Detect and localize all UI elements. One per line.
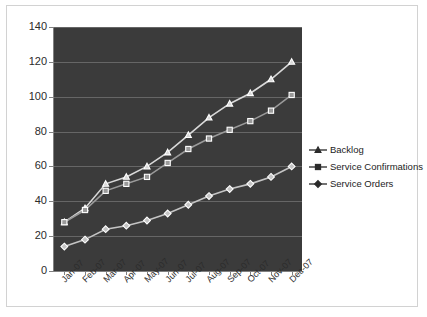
y-axis-tick-label: 140 bbox=[7, 21, 47, 32]
square-marker bbox=[308, 161, 328, 173]
legend-item-service-orders[interactable]: Service Orders bbox=[308, 177, 418, 191]
y-axis-tick-mark bbox=[49, 97, 53, 98]
square-marker bbox=[82, 207, 87, 212]
diamond-marker bbox=[308, 178, 328, 190]
y-axis-tick-label: 20 bbox=[7, 230, 47, 241]
square-marker bbox=[289, 92, 294, 97]
diamond-marker bbox=[226, 186, 233, 193]
diamond-marker bbox=[144, 217, 151, 224]
diamond-marker bbox=[82, 236, 89, 243]
chart-frame: 140120100806040200 Jan-07Feb-07Mar-07Apr… bbox=[6, 5, 418, 307]
diamond-marker bbox=[268, 173, 275, 180]
y-axis-tick-mark bbox=[49, 271, 53, 272]
triangle-marker bbox=[308, 144, 328, 156]
y-axis-tick-label: 100 bbox=[7, 91, 47, 102]
diamond-marker bbox=[102, 226, 109, 233]
series-layer bbox=[54, 27, 302, 271]
square-marker bbox=[227, 127, 232, 132]
y-axis-line bbox=[53, 27, 54, 272]
series-service-confirmations bbox=[62, 92, 295, 224]
triangle-marker bbox=[123, 174, 129, 180]
diamond-marker bbox=[164, 210, 171, 217]
y-axis-tick-label: 40 bbox=[7, 195, 47, 206]
triangle-marker bbox=[103, 181, 109, 187]
series-service-orders bbox=[61, 163, 295, 250]
diamond-marker bbox=[315, 181, 322, 188]
y-axis-tick-label: 0 bbox=[7, 265, 47, 276]
y-axis-tick-label: 60 bbox=[7, 160, 47, 171]
diamond-marker bbox=[185, 201, 192, 208]
square-marker bbox=[186, 146, 191, 151]
square-marker bbox=[315, 164, 320, 169]
y-axis-tick-mark bbox=[49, 166, 53, 167]
series-line bbox=[64, 166, 291, 246]
y-axis-tick-mark bbox=[49, 236, 53, 237]
diamond-marker bbox=[247, 180, 254, 187]
triangle-marker bbox=[315, 147, 321, 153]
square-marker bbox=[103, 188, 108, 193]
legend-item-label: Service Orders bbox=[330, 179, 393, 189]
square-marker bbox=[144, 174, 149, 179]
diamond-marker bbox=[61, 243, 68, 250]
chart-legend: BacklogService ConfirmationsService Orde… bbox=[308, 143, 418, 194]
square-marker bbox=[248, 119, 253, 124]
square-marker bbox=[206, 136, 211, 141]
legend-item-backlog[interactable]: Backlog bbox=[308, 143, 418, 157]
y-axis-tick-mark bbox=[49, 62, 53, 63]
diamond-marker bbox=[123, 222, 130, 229]
legend-item-service-confirmations[interactable]: Service Confirmations bbox=[308, 160, 418, 174]
square-marker bbox=[62, 220, 67, 225]
triangle-marker bbox=[289, 59, 295, 65]
diamond-marker bbox=[206, 193, 213, 200]
series-line bbox=[64, 95, 291, 222]
triangle-marker bbox=[227, 100, 233, 106]
diamond-marker bbox=[288, 163, 295, 170]
plot-area bbox=[54, 27, 302, 271]
y-axis-tick-mark bbox=[49, 201, 53, 202]
legend-item-label: Service Confirmations bbox=[330, 162, 423, 172]
y-axis-tick-label: 80 bbox=[7, 126, 47, 137]
square-marker bbox=[124, 181, 129, 186]
legend-item-label: Backlog bbox=[330, 145, 364, 155]
y-axis-tick-mark bbox=[49, 27, 53, 28]
square-marker bbox=[268, 108, 273, 113]
square-marker bbox=[165, 160, 170, 165]
y-axis-tick-mark bbox=[49, 132, 53, 133]
y-axis-tick-label: 120 bbox=[7, 56, 47, 67]
